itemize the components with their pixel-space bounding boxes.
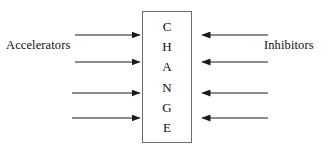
- change-letter-h: H: [162, 40, 171, 53]
- force-field-diagram: Accelerators Inhibitors C H A N G E: [0, 0, 329, 152]
- change-letter-e: E: [163, 121, 171, 134]
- change-box: C H A N G E: [142, 11, 192, 143]
- right-inhibitor-arrows: [202, 35, 268, 118]
- change-letter-n: N: [162, 81, 171, 94]
- left-accelerator-arrows: [72, 35, 140, 118]
- accelerators-label: Accelerators: [6, 38, 70, 53]
- inhibitors-label: Inhibitors: [264, 38, 314, 53]
- change-letters-stack: C H A N G E: [143, 12, 191, 142]
- change-letter-c: C: [163, 20, 172, 33]
- change-letter-g: G: [162, 101, 171, 114]
- change-letter-a: A: [162, 60, 171, 73]
